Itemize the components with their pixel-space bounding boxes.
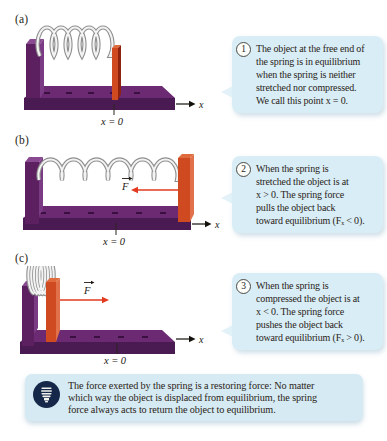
svg-text:F: F (83, 285, 91, 296)
x-axis-label: x (198, 99, 204, 110)
callout-2-pointer (221, 192, 233, 204)
callout-line: The object at the free end of (256, 42, 380, 55)
callout-line: toward equilibrium (Fₓ > 0). (256, 331, 380, 344)
spring-coil (39, 159, 179, 180)
key-idea-line: The force exerted by the spring is a res… (68, 380, 357, 392)
callout-1-number-badge: 1 (236, 42, 251, 57)
object-block (46, 278, 60, 342)
callout-line: stretched the object is at (256, 175, 380, 188)
callout-1: 1 The object at the free end of the spri… (232, 36, 383, 113)
origin-label: x = 0 (103, 355, 127, 366)
panel-b-label: (b) (15, 134, 29, 146)
callout-line: We call this point x = 0. (256, 94, 380, 107)
callout-2-text: When the spring is stretched the object … (256, 162, 380, 227)
x-axis-arrow: x (192, 219, 220, 230)
key-idea-line: force always acts to return the object t… (68, 404, 357, 416)
textbook-figure: (a) x (0, 0, 387, 441)
callout-line: x < 0. The spring force (256, 305, 380, 318)
force-arrow: F (121, 177, 178, 193)
callout-line: When the spring is (256, 162, 380, 175)
force-vector-label: F (83, 281, 95, 296)
force-arrow: F (60, 281, 109, 303)
callout-line: stretched nor compressed. (256, 81, 380, 94)
callout-2-number-badge: 2 (236, 162, 251, 177)
callout-line: the spring is in equilibrium (256, 55, 380, 68)
callout-3: 3 When the spring is compressed the obje… (232, 273, 383, 350)
track-base (23, 206, 191, 230)
callout-line: When the spring is (256, 279, 380, 292)
spring-coil (38, 28, 113, 56)
panel-a-diagram: x x = 0 (10, 22, 225, 132)
x-axis-label: x (214, 219, 220, 230)
key-idea-line: which way the object is displaced from e… (68, 392, 357, 404)
callout-1-pointer (221, 86, 233, 98)
callout-line: pulls the object back (256, 201, 380, 214)
origin-label: x = 0 (102, 236, 126, 247)
origin-label: x = 0 (100, 116, 124, 127)
svg-text:F: F (121, 181, 129, 192)
callout-line: pushes the object back (256, 318, 380, 331)
panel-b-diagram: F x x = 0 (10, 146, 225, 258)
key-idea-box: The force exerted by the spring is a res… (25, 374, 363, 421)
callout-2: 2 When the spring is stretched the objec… (232, 156, 383, 233)
object-block (112, 45, 121, 100)
lightbulb-icon (33, 381, 60, 408)
key-idea-text: The force exerted by the spring is a res… (68, 380, 357, 415)
wall (26, 39, 44, 98)
x-axis-arrow: x (176, 99, 204, 110)
panel-c-label: (c) (15, 252, 28, 264)
callout-line: toward equilibrium (Fₓ < 0). (256, 214, 380, 227)
callout-line: x > 0. The spring force (256, 188, 380, 201)
callout-3-text: When the spring is compressed the object… (256, 279, 380, 344)
x-axis-arrow: x (176, 334, 204, 345)
callout-1-text: The object at the free end of the spring… (256, 42, 380, 107)
callout-line: when the spring is neither (256, 68, 380, 81)
callout-3-number-badge: 3 (236, 279, 251, 294)
x-axis-label: x (198, 334, 204, 345)
track-base (24, 86, 175, 110)
callout-line: compressed the object is at (256, 292, 380, 305)
callout-3-pointer (221, 325, 233, 337)
object-block (178, 154, 194, 222)
force-vector-label: F (121, 177, 133, 192)
track-base (20, 330, 175, 354)
panel-c-diagram: F x x = 0 (10, 266, 225, 370)
